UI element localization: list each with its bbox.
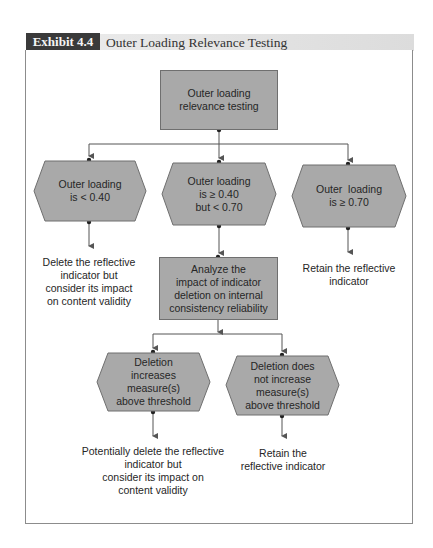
outcome-text: on content validity <box>30 295 148 308</box>
outcome-text: Retain the <box>228 447 338 460</box>
outcome-text: reflective indicator <box>228 460 338 473</box>
node-text: impact of indicator <box>169 276 268 289</box>
node-text: above threshold <box>116 395 191 408</box>
node-text: but < 0.70 <box>187 201 250 214</box>
outcome-text: Retain the reflective <box>288 262 410 275</box>
analyze-node: Analyze the impact of indicator deletion… <box>159 257 278 320</box>
outcome-text: Potentially delete the reflective <box>63 445 243 458</box>
condition-low-node: Outer loading is < 0.40 <box>33 160 147 222</box>
node-text: is ≥ 0.70 <box>316 196 382 209</box>
outcome-potentially-delete: Potentially delete the reflective indica… <box>63 445 243 497</box>
condition-mid-node: Outer loading is ≥ 0.40 but < 0.70 <box>161 162 277 226</box>
node-text: deletion on internal <box>169 289 268 302</box>
node-text: Analyze the <box>169 263 268 276</box>
node-text: measure(s) <box>245 386 320 399</box>
start-node: Outer loading relevance testing <box>160 70 278 130</box>
condition-high-node: Outer loading is ≥ 0.70 <box>291 164 407 228</box>
condition-increase-node: Deletion increases measure(s) above thre… <box>96 352 211 412</box>
node-text: consistency reliability <box>169 302 268 315</box>
node-text: Outer loading <box>58 178 121 191</box>
outcome-text: Delete the reflective <box>30 256 148 269</box>
outcome-text: indicator but <box>63 458 243 471</box>
outcome-delete: Delete the reflective indicator but cons… <box>30 256 148 308</box>
node-text: above threshold <box>245 399 320 412</box>
node-text: Outer loading <box>179 87 258 100</box>
outcome-text: indicator <box>288 275 410 288</box>
node-text: measure(s) <box>116 382 191 395</box>
node-text: Deletion <box>116 356 191 369</box>
outcome-retain: Retain the reflective indicator <box>288 262 410 288</box>
node-text: Outer loading <box>187 175 250 188</box>
node-text: not increase <box>245 373 320 386</box>
outcome-retain-indicator: Retain the reflective indicator <box>228 447 338 473</box>
outcome-text: indicator but <box>30 269 148 282</box>
outcome-text: consider its impact <box>30 282 148 295</box>
node-text: increases <box>116 369 191 382</box>
condition-no-increase-node: Deletion does not increase measure(s) ab… <box>225 355 340 416</box>
node-text: Deletion does <box>245 360 320 373</box>
node-text: Outer loading <box>316 183 382 196</box>
node-text: is < 0.40 <box>58 191 121 204</box>
node-text: relevance testing <box>179 100 258 113</box>
outcome-text: consider its impact on <box>63 471 243 484</box>
node-text: is ≥ 0.40 <box>187 188 250 201</box>
outcome-text: content validity <box>63 484 243 497</box>
